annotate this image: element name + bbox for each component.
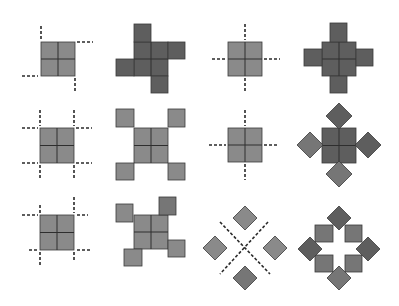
square-tile	[356, 49, 373, 66]
square-tile	[116, 59, 134, 76]
square-tile	[168, 240, 185, 257]
square-tile	[116, 109, 134, 127]
square-tile	[330, 23, 347, 42]
square-tile	[116, 204, 133, 222]
square-tile	[168, 109, 185, 127]
square-tile	[151, 76, 168, 93]
square-tile	[330, 76, 347, 93]
square-tile	[315, 225, 333, 242]
square-tile	[116, 163, 134, 180]
square-tile	[134, 24, 151, 42]
square-tile	[168, 42, 185, 59]
square-tile	[315, 255, 333, 272]
square-tile	[304, 49, 322, 66]
square-tile	[345, 255, 362, 272]
square-tile	[345, 225, 362, 242]
square-tile	[159, 197, 176, 215]
tiling-diagram	[0, 0, 399, 306]
square-tile	[124, 249, 142, 266]
square-tile	[168, 163, 185, 180]
